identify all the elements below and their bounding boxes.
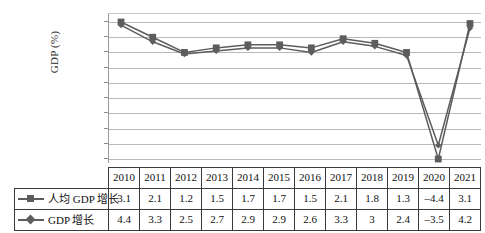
table-row: 人均 GDP 增长3.12.11.21.51.71.71.52.11.81.3–… bbox=[15, 189, 481, 210]
table-cell-value: 1.3 bbox=[388, 189, 419, 210]
table-header-year: 2018 bbox=[357, 168, 388, 189]
legend-row-label-gdp-growth: GDP 增长 bbox=[15, 210, 109, 231]
table-cell-value: 1.8 bbox=[357, 189, 388, 210]
table-header-year: 2016 bbox=[295, 168, 326, 189]
table-cell-value: 2.6 bbox=[295, 210, 326, 231]
table-cell-value: 3 bbox=[357, 210, 388, 231]
legend-diamond-glyph bbox=[26, 215, 36, 225]
plot-region bbox=[108, 13, 481, 163]
table-cell-value: 2.9 bbox=[264, 210, 295, 231]
table-header-year: 2014 bbox=[233, 168, 264, 189]
table-cell-value: 1.5 bbox=[202, 189, 233, 210]
table-cell-value: 4.2 bbox=[450, 210, 481, 231]
data-table: 2010201120122013201420152016201720182019… bbox=[14, 167, 481, 231]
table-header-year: 2010 bbox=[109, 168, 140, 189]
plot-area bbox=[108, 13, 481, 163]
legend-square-glyph bbox=[27, 195, 34, 202]
table-cell-value: 2.1 bbox=[140, 189, 171, 210]
table-cell-value: 3.1 bbox=[450, 189, 481, 210]
table-cell-value: 1.7 bbox=[233, 189, 264, 210]
series-line-gdp-growth bbox=[121, 25, 470, 145]
table-cell-value: –3.5 bbox=[419, 210, 450, 231]
table-row: GDP 增长4.43.32.52.72.92.92.63.332.4–3.54.… bbox=[15, 210, 481, 231]
table-cell-value: 2.5 bbox=[171, 210, 202, 231]
data-table-wrap: 2010201120122013201420152016201720182019… bbox=[14, 167, 481, 231]
table-header-year: 2013 bbox=[202, 168, 233, 189]
table-cell-value: 1.2 bbox=[171, 189, 202, 210]
series-line-per-capita-gdp-growth bbox=[121, 22, 470, 159]
legend-marker-square-icon bbox=[18, 194, 44, 203]
table-header-row: 2010201120122013201420152016201720182019… bbox=[15, 168, 481, 189]
table-header-year: 2015 bbox=[264, 168, 295, 189]
table-header-year: 2017 bbox=[326, 168, 357, 189]
table-cell-value: 2.9 bbox=[233, 210, 264, 231]
legend-row-label-per-capita-gdp-growth: 人均 GDP 增长 bbox=[15, 189, 109, 210]
table-corner-cell bbox=[15, 168, 109, 189]
table-cell-value: 1.7 bbox=[264, 189, 295, 210]
table-cell-value: 2.1 bbox=[326, 189, 357, 210]
table-cell-value: 2.4 bbox=[388, 210, 419, 231]
table-header-year: 2020 bbox=[419, 168, 450, 189]
series-name-label: GDP 增长 bbox=[48, 213, 94, 225]
table-header-year: 2021 bbox=[450, 168, 481, 189]
table-header-year: 2011 bbox=[140, 168, 171, 189]
series-layer bbox=[109, 14, 481, 163]
table-cell-value: –4.4 bbox=[419, 189, 450, 210]
gdp-growth-figure: GDP (%) 20102011201220132014201520162017… bbox=[0, 0, 485, 233]
table-cell-value: 3.3 bbox=[326, 210, 357, 231]
table-header-year: 2019 bbox=[388, 168, 419, 189]
y-axis-title: GDP (%) bbox=[48, 0, 60, 112]
data-point-marker-square bbox=[435, 156, 442, 163]
table-header-year: 2012 bbox=[171, 168, 202, 189]
legend-marker-diamond-icon bbox=[18, 215, 44, 224]
series-name-label: 人均 GDP 增长 bbox=[48, 192, 119, 204]
table-cell-value: 3.3 bbox=[140, 210, 171, 231]
table-cell-value: 1.5 bbox=[295, 189, 326, 210]
table-cell-value: 2.7 bbox=[202, 210, 233, 231]
table-cell-value: 4.4 bbox=[109, 210, 140, 231]
